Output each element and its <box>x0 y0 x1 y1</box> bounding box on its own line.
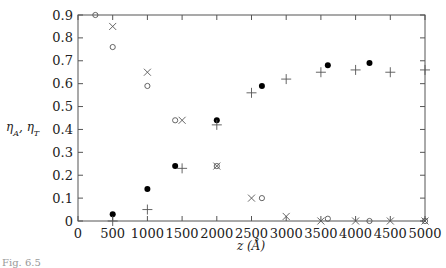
x-tick-label: 3500 <box>304 226 337 241</box>
x-tick-label: 500 <box>100 226 125 241</box>
cross-marker <box>109 23 116 30</box>
plus-marker <box>212 120 222 130</box>
x-axis-ticks: 0500100015002000250030003500400045005000 <box>74 15 442 241</box>
x-axis-label: z (Å) <box>236 238 265 253</box>
y-tick-label: 0.4 <box>52 122 73 137</box>
y-tick-label: 0.5 <box>52 99 73 114</box>
y-tick-label: 0.9 <box>52 8 73 23</box>
plus-marker <box>142 205 152 215</box>
filled-circle-marker <box>325 62 331 68</box>
y-tick-label: 0.6 <box>52 76 73 91</box>
x-tick-label: 1000 <box>131 226 164 241</box>
y-tick-label: 0 <box>65 214 73 229</box>
filled-circle-marker <box>144 186 150 192</box>
open-circle-marker <box>145 83 150 88</box>
plot-frame <box>78 15 425 221</box>
x-tick-label: 2000 <box>200 226 233 241</box>
open-circle-marker <box>173 118 178 123</box>
x-tick-label: 3000 <box>270 226 303 241</box>
x-tick-label: 4500 <box>374 226 407 241</box>
x-tick-label: 4000 <box>339 226 372 241</box>
figure-caption: Fig. 6.5 <box>2 257 41 268</box>
x-tick-label: 0 <box>74 226 82 241</box>
y-axis-label: ηA, ηT <box>6 120 40 138</box>
plus-marker <box>385 67 395 77</box>
cross-marker <box>179 117 186 124</box>
x-tick-label: 5000 <box>408 226 441 241</box>
data-points <box>93 12 430 226</box>
y-tick-label: 0.2 <box>52 168 73 183</box>
plus-marker <box>177 163 187 173</box>
cross-marker <box>248 195 255 202</box>
filled-circle-marker <box>259 83 265 89</box>
open-circle-marker <box>259 196 264 201</box>
cross-marker <box>144 69 151 76</box>
y-tick-label: 0.7 <box>52 53 73 68</box>
plus-marker <box>281 74 291 84</box>
plus-marker <box>420 65 430 75</box>
plus-marker <box>351 65 361 75</box>
open-circle-marker <box>110 44 115 49</box>
filled-circle-marker <box>366 60 372 66</box>
y-tick-label: 0.8 <box>52 30 73 45</box>
plus-marker <box>108 216 118 226</box>
y-axis-ticks: 00.10.20.30.40.50.60.70.80.9 <box>52 8 425 229</box>
x-tick-label: 1500 <box>166 226 199 241</box>
y-tick-label: 0.1 <box>52 191 73 206</box>
y-tick-label: 0.3 <box>52 145 73 160</box>
plus-marker <box>247 88 257 98</box>
plus-marker <box>316 67 326 77</box>
